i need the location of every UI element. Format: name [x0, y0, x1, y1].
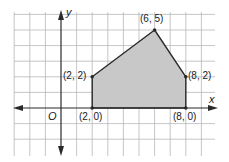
vertex-label-8-2: (8, 2) [188, 71, 211, 81]
vertex-point [153, 28, 157, 32]
shaded-polygon [92, 30, 186, 108]
coordinate-plane: y x O (2, 0) (2, 2) (6, 5) (8, 2) (8, 0) [0, 0, 229, 162]
origin-label: O [48, 111, 57, 122]
y-axis-label: y [66, 7, 72, 18]
x-axis-label: x [209, 94, 215, 105]
x-axis-right-arrow-icon [208, 105, 218, 111]
vertex-label-6-5: (6, 5) [140, 14, 163, 24]
coordinate-plane-svg [0, 0, 229, 162]
y-axis-up-arrow-icon [58, 10, 64, 20]
vertex-point [90, 106, 94, 110]
vertex-label-2-0: (2, 0) [79, 112, 102, 122]
vertex-point [184, 106, 188, 110]
vertex-label-8-0: (8, 0) [173, 112, 196, 122]
vertex-label-2-2: (2, 2) [63, 71, 86, 81]
y-axis-down-arrow-icon [58, 146, 64, 156]
vertex-point [90, 75, 94, 79]
